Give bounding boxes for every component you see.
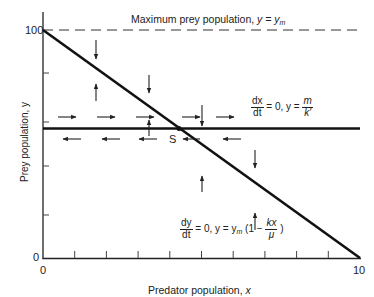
dy-dt-equation: dydt = 0, y = ym (1 − kxμ ) <box>180 218 284 240</box>
x-axis-label: Predator population, x <box>148 285 251 296</box>
equilibrium-point <box>177 126 182 131</box>
max-prey-label: Maximum prey population, y = ym <box>131 14 285 26</box>
phase-plane-diagram <box>0 0 374 297</box>
y-tick-100: 100 <box>25 25 43 36</box>
y-ticks <box>43 73 49 215</box>
x-tick-0: 0 <box>40 265 46 276</box>
x-ticks <box>75 251 329 258</box>
dx-dt-equation: dxdt = 0, y = mk′ <box>251 96 313 118</box>
equilibrium-label: S <box>169 134 176 145</box>
x-tick-10: 10 <box>353 265 365 276</box>
y-tick-0: 0 <box>33 252 39 263</box>
direction-arrows <box>58 40 255 230</box>
y-axis-label: Prey population, y <box>20 87 30 197</box>
